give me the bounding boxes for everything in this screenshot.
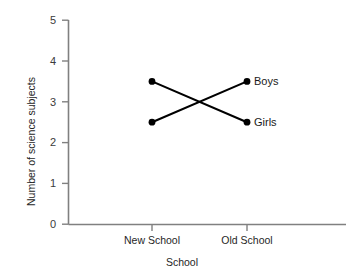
x-tick-label-new-school: New School [110, 235, 194, 246]
y-axis-title: Number of science subjects [26, 77, 37, 206]
y-tick-label-2: 2 [34, 137, 56, 148]
x-axis-title: School [0, 257, 364, 268]
series-label-boys: Boys [254, 76, 278, 87]
x-tick-label-old-school: Old School [205, 235, 289, 246]
data-point-girls-new-school [149, 78, 156, 85]
line-chart: 5 4 3 2 1 0 New School Old School Number… [0, 0, 364, 276]
data-point-boys-new-school [149, 119, 156, 126]
y-tick-label-5: 5 [34, 15, 56, 26]
y-tick-label-3: 3 [34, 97, 56, 108]
data-point-girls-old-school [244, 119, 251, 126]
series-label-girls: Girls [254, 117, 277, 128]
y-tick-label-1: 1 [34, 178, 56, 189]
y-axis-ticks [62, 20, 69, 224]
series-line-boys [149, 78, 251, 126]
data-point-boys-old-school [244, 78, 251, 85]
y-tick-label-4: 4 [34, 56, 56, 67]
y-tick-label-0: 0 [34, 219, 56, 230]
x-axis-ticks [152, 225, 247, 232]
